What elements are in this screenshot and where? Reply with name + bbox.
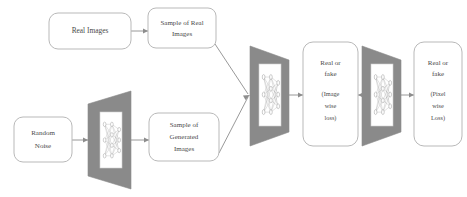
diagram-canvas: Real Images Sample of Real Images Random… [0,0,467,197]
pixel-wise-loss-label-line1: Real or [428,59,449,67]
connector-real-images-to-sample-real [131,29,148,34]
image-wise-loss-sublabel-line2: wise [325,102,337,109]
image-wise-loss-sublabel-line1: (Image [322,90,340,98]
image-wise-loss-label-line1: Real or [320,59,341,67]
pixel-wise-loss-label-line2: fake [432,70,444,78]
node-sample-real-images[interactable]: Sample of Real Images [148,8,216,48]
connector-sample-generated-to-discriminator [219,95,250,153]
node-image-wise-loss[interactable]: Real or fake (Image wise loss) [303,42,358,146]
sample-real-images-box[interactable] [148,8,216,48]
pixel-wise-loss-sublabel-line2: wise [432,102,444,109]
connector-discriminator-to-image-loss [289,93,303,98]
sample-real-images-label-line2: Images [172,30,192,38]
node-generator[interactable] [88,91,131,189]
random-noise-box[interactable] [14,117,72,162]
gan-architecture-diagram: Real Images Sample of Real Images Random… [0,0,467,197]
random-noise-label-line1: Random [31,129,55,137]
sample-real-images-label-line1: Sample of Real [160,19,203,27]
node-pixel-wise-loss[interactable]: Real or fake (Pixel wise Loss) [414,42,462,146]
image-wise-loss-sublabel-line3: loss) [325,114,337,122]
real-images-label: Real Images [72,26,109,35]
pixel-wise-loss-sublabel-line1: (Pixel [430,90,445,98]
sample-generated-images-label-line3: Images [174,145,194,153]
sample-generated-images-label-line2: Generated [170,133,199,141]
connector-pixel-discriminator-to-pixel-loss [401,93,414,98]
connector-sample-real-to-discriminator [215,44,248,94]
sample-generated-images-label-line1: Sample of [170,121,199,129]
node-real-images[interactable]: Real Images [49,13,131,49]
image-wise-loss-label-line2: fake [324,70,336,78]
connector-random-noise-to-generator [72,138,88,143]
node-discriminator-pixel[interactable] [362,46,401,146]
node-sample-generated-images[interactable]: Sample of Generated Images [149,113,219,161]
node-random-noise[interactable]: Random Noise [14,117,72,162]
connector-generator-to-sample-generated [131,138,149,143]
random-noise-label-line2: Noise [35,142,51,150]
pixel-wise-loss-sublabel-line3: Loss) [431,114,445,122]
node-discriminator-image[interactable] [250,46,289,146]
